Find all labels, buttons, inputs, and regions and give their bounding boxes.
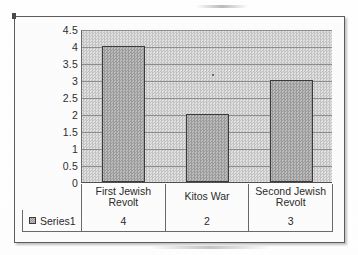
scan-smudge-top	[196, 5, 248, 8]
legend-series-label: Series1	[40, 215, 76, 227]
data-table-value: 2	[166, 210, 250, 231]
bar[interactable]	[270, 80, 313, 182]
y-tick-label: 2.5	[63, 93, 78, 103]
series1-swatch-icon	[29, 217, 36, 224]
chart-data-table: Series1 423	[22, 210, 333, 232]
page-corner-mark	[12, 13, 16, 19]
y-tick-label: 1.5	[63, 127, 78, 137]
gridline	[82, 30, 332, 31]
scan-speck	[212, 74, 214, 76]
data-table-value: 4	[82, 210, 166, 231]
y-tick-label: 3	[72, 76, 78, 86]
y-tick-label: 0.5	[63, 161, 78, 171]
legend-cell: Series1	[23, 210, 82, 231]
scan-smudge-bottom	[150, 246, 270, 249]
data-table-value: 3	[249, 210, 332, 231]
y-tick-label: 2	[72, 110, 78, 120]
bar[interactable]	[102, 46, 145, 182]
category-label: Kitos War	[165, 184, 249, 210]
category-label: First Jewish Revolt	[81, 184, 165, 210]
y-axis-tick-labels: 4.543.532.521.510.50	[40, 24, 78, 190]
plot-area	[81, 30, 332, 183]
x-axis-category-labels: First Jewish RevoltKitos WarSecond Jewis…	[81, 184, 333, 211]
y-tick-label: 0	[72, 178, 78, 188]
bar[interactable]	[186, 114, 229, 182]
y-tick-label: 4	[72, 42, 78, 52]
y-tick-label: 1	[72, 144, 78, 154]
y-tick-label: 4.5	[63, 25, 78, 35]
y-tick-label: 3.5	[63, 59, 78, 69]
category-label: Second Jewish Revolt	[248, 184, 333, 210]
